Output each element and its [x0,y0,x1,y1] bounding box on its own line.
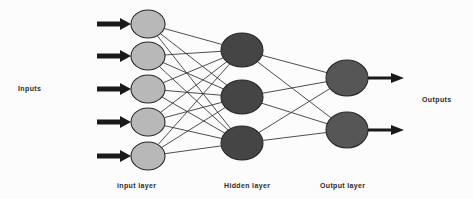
neural-network-diagram: Inputs Outputs input layer Hidden layer … [0,0,473,199]
connection-line [262,55,327,72]
connection-line [164,28,222,44]
connection-line [163,58,223,83]
input-arrow-3 [97,83,131,95]
output-layer-label: Output layer [320,182,365,189]
neuron-nodes-group [131,10,368,170]
neuron-node-hidden-3 [221,126,263,160]
neuron-node-input-5 [131,142,165,170]
connection-line [165,146,222,154]
connection-line [259,89,330,133]
connection-line [165,51,221,55]
output-arrow-1 [368,73,404,83]
neuron-node-hidden-2 [221,80,263,114]
connection-line [257,62,331,118]
input-arrow-5 [97,150,131,162]
connection-line [160,34,226,86]
neuron-node-input-1 [131,10,165,38]
hidden-layer-label: Hidden layer [224,182,270,189]
connection-line [262,82,326,94]
input-arrow-2 [97,50,131,62]
input-arrow-4 [97,116,131,128]
outputs-label: Outputs [422,96,452,103]
connection-line [165,90,221,95]
connection-line [263,133,326,141]
neuron-node-input-2 [131,42,165,70]
neuron-node-output-2 [326,112,368,148]
connection-line [157,36,230,129]
network-graph-canvas [0,0,473,199]
output-arrow-2 [368,125,404,135]
inputs-label: Inputs [18,85,41,92]
neuron-node-input-4 [131,108,165,136]
input-layer-label: input layer [117,182,156,189]
connection-line [262,103,328,124]
neuron-node-output-1 [326,60,368,96]
neuron-node-input-3 [131,75,165,103]
neuron-node-hidden-1 [221,33,263,67]
input-arrow-1 [97,18,131,30]
